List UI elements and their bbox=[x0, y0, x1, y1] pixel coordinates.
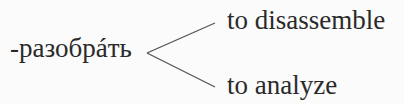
branch-line-lower bbox=[147, 53, 215, 87]
branch-line-upper bbox=[147, 23, 215, 53]
branch-label-disassemble: to disassemble bbox=[227, 7, 385, 34]
branch-label-analyze: to analyze bbox=[227, 72, 337, 99]
